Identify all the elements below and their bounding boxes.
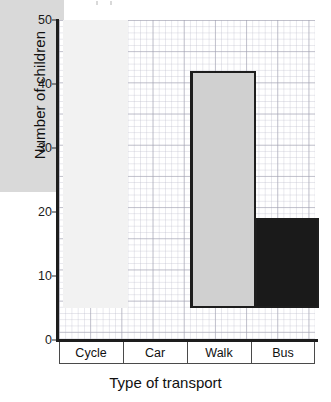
bar-bus xyxy=(255,218,319,308)
y-tick-label-20: 20 xyxy=(18,205,52,219)
category-label-bus: Bus xyxy=(251,342,315,364)
category-label-walk: Walk xyxy=(187,342,251,364)
y-tick-label-0: 0 xyxy=(18,333,52,347)
y-tick-label-50: 50 xyxy=(18,13,52,27)
y-tick-label-10: 10 xyxy=(18,269,52,283)
bar-walk xyxy=(191,71,256,308)
bar-chart: Number of children 50 40 30 20 10 0 Cycl… xyxy=(0,0,64,192)
category-label-car: Car xyxy=(123,342,187,364)
y-tick-label-30: 30 xyxy=(18,141,52,155)
bar-series xyxy=(63,20,128,308)
y-axis-ticks: 50 40 30 20 10 0 xyxy=(12,0,52,402)
artifact-speck xyxy=(96,1,98,5)
category-label-cycle: Cycle xyxy=(59,342,123,364)
y-tick-label-40: 40 xyxy=(18,77,52,91)
artifact-speck xyxy=(110,1,112,5)
x-axis-title: Type of transport xyxy=(0,374,331,391)
y-axis-line xyxy=(56,19,59,341)
x-axis-category-labels: Cycle Car Walk Bus xyxy=(59,342,315,364)
category-strip-baseline xyxy=(59,363,315,364)
